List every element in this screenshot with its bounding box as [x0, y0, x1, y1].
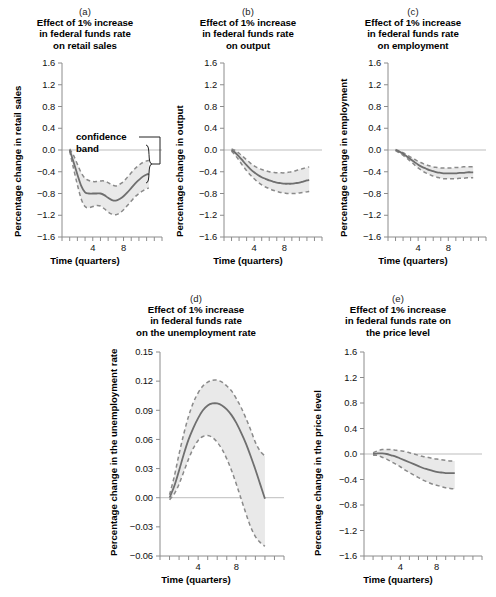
y-tick-label: 0.0 — [323, 448, 357, 459]
y-tick-label: −1.2 — [323, 525, 357, 536]
x-axis-label: Time (quarters) — [96, 574, 296, 585]
x-tick-label: 4 — [188, 561, 208, 572]
panel-b-title-line3: on output — [166, 40, 330, 51]
y-tick-label: 1.6 — [183, 57, 217, 68]
y-tick-label: −0.4 — [183, 166, 217, 177]
y-tick-label: 1.2 — [183, 79, 217, 90]
y-tick-label: 1.6 — [347, 57, 381, 68]
y-tick-label: 0.03 — [119, 463, 153, 474]
y-tick-label: −0.8 — [323, 499, 357, 510]
panel-a-title-line1: Effect of 1% increase — [0, 17, 170, 28]
confidence-band-leader — [0, 59, 170, 259]
x-axis-label: Time (quarters) — [166, 255, 330, 266]
y-tick-label: −0.4 — [347, 166, 381, 177]
panel-b-title-line2: in federal funds rate — [166, 28, 330, 39]
y-tick-label: 0.06 — [119, 434, 153, 445]
y-tick-label: 0.12 — [119, 375, 153, 386]
confidence-band-fill — [170, 380, 265, 546]
x-tick-label: 8 — [427, 561, 447, 572]
x-tick-label: 8 — [226, 561, 246, 572]
y-tick-label: −0.8 — [347, 188, 381, 199]
panel-a-letter: (a) — [0, 6, 170, 17]
panel-a-title-line3: on retail sales — [0, 40, 170, 51]
y-tick-label: 0.15 — [119, 346, 153, 357]
panel-b-plot: 1.61.20.80.40.0−0.4−0.8−1.2−1.648Time (q… — [166, 59, 330, 269]
y-axis-label: Percentage change in employment — [338, 79, 349, 237]
panel-d: (d) Effect of 1% increase in federal fun… — [96, 293, 296, 593]
panel-d-letter: (d) — [96, 293, 296, 304]
y-tick-label: 0.8 — [347, 101, 381, 112]
panel-e-title-line1: Effect of 1% increase — [300, 304, 496, 315]
x-tick-label: 4 — [244, 242, 264, 253]
panel-d-title-line2: in federal funds rate — [96, 315, 296, 326]
panel-b-title-line1: Effect of 1% increase — [166, 17, 330, 28]
panel-e-title-line2: in federal funds rate on — [300, 315, 496, 326]
panel-c-plot: 1.61.20.80.40.0−0.4−0.8−1.2−1.648Time (q… — [330, 59, 496, 269]
panel-d-title: Effect of 1% increase in federal funds r… — [96, 304, 296, 338]
y-tick-label: −1.6 — [183, 231, 217, 242]
chart-e-svg — [300, 348, 496, 580]
panel-a-title: Effect of 1% increase in federal funds r… — [0, 17, 170, 51]
y-tick-label: −0.06 — [119, 550, 153, 561]
panel-c-title-line1: Effect of 1% increase — [330, 17, 496, 28]
y-tick-label: −0.8 — [183, 188, 217, 199]
y-tick-label: −1.6 — [323, 550, 357, 561]
y-tick-label: 0.4 — [323, 423, 357, 434]
y-tick-label: 0.8 — [183, 101, 217, 112]
panel-e-title: Effect of 1% increase in federal funds r… — [300, 304, 496, 338]
panel-b-letter: (b) — [166, 6, 330, 17]
y-axis-label: Percentage change in output — [174, 106, 185, 238]
y-tick-label: 1.2 — [347, 79, 381, 90]
panel-a-plot: 1.61.20.80.40.0−0.4−0.8−1.2−1.648Time (q… — [0, 59, 170, 269]
x-axis-label: Time (quarters) — [330, 255, 496, 266]
y-tick-label: 1.2 — [323, 372, 357, 383]
y-tick-label: 0.8 — [323, 397, 357, 408]
impulse-response-figure: (a) Effect of 1% increase in federal fun… — [0, 0, 496, 597]
y-tick-label: 0.4 — [183, 122, 217, 133]
y-tick-label: 0.0 — [183, 144, 217, 155]
panel-e-plot: 1.61.20.80.40.0−0.4−0.8−1.2−1.648Time (q… — [300, 348, 496, 593]
x-axis-label: Time (quarters) — [300, 574, 496, 585]
y-tick-label: −0.03 — [119, 521, 153, 532]
y-tick-label: 0.4 — [347, 122, 381, 133]
x-tick-label: 4 — [390, 561, 410, 572]
y-axis-label: Percentage change in the price level — [312, 390, 323, 556]
panel-a-title-line2: in federal funds rate — [0, 28, 170, 39]
x-tick-label: 8 — [274, 242, 294, 253]
y-tick-label: 0.0 — [347, 144, 381, 155]
confidence-band-fill — [373, 450, 455, 490]
panel-c-letter: (c) — [330, 6, 496, 17]
y-tick-label: −1.6 — [347, 231, 381, 242]
panel-c-title: Effect of 1% increase in federal funds r… — [330, 17, 496, 51]
panel-a: (a) Effect of 1% increase in federal fun… — [0, 6, 170, 269]
y-tick-label: 1.6 — [323, 346, 357, 357]
panel-e-title-line3: the price level — [300, 327, 496, 338]
panel-c-title-line3: on employment — [330, 40, 496, 51]
panel-d-plot: 0.150.120.090.060.030.00−0.03−0.0648Time… — [96, 348, 296, 593]
panel-d-title-line1: Effect of 1% increase — [96, 304, 296, 315]
panel-d-title-line3: on the unemployment rate — [96, 327, 296, 338]
y-tick-label: −0.4 — [323, 474, 357, 485]
panel-c: (c) Effect of 1% increase in federal fun… — [330, 6, 496, 269]
panel-c-title-line2: in federal funds rate — [330, 28, 496, 39]
confidence-band-fill — [396, 150, 474, 179]
panel-e-letter: (e) — [300, 293, 496, 304]
panel-b: (b) Effect of 1% increase in federal fun… — [166, 6, 330, 269]
x-tick-label: 8 — [438, 242, 458, 253]
y-tick-label: −1.2 — [183, 209, 217, 220]
y-tick-label: 0.00 — [119, 492, 153, 503]
y-axis-label: Percentage change in the unemployment ra… — [108, 349, 119, 556]
panel-e: (e) Effect of 1% increase in federal fun… — [300, 293, 496, 593]
y-tick-label: −1.2 — [347, 209, 381, 220]
x-tick-label: 4 — [408, 242, 428, 253]
panel-b-title: Effect of 1% increase in federal funds r… — [166, 17, 330, 51]
y-tick-label: 0.09 — [119, 405, 153, 416]
